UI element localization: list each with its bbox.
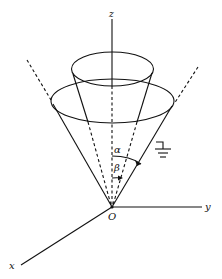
origin-label: O <box>108 211 116 222</box>
origin-point <box>110 205 113 208</box>
x-axis-label: x <box>9 260 15 271</box>
inner-cone-side-right <box>137 73 152 122</box>
cone-diagram: z y x O α β <box>0 0 222 279</box>
outer-cone-extension-left <box>27 60 51 100</box>
z-axis-label: z <box>108 9 114 19</box>
beta-arrowhead <box>118 176 123 181</box>
beta-label: β <box>113 162 120 173</box>
alpha-label: α <box>114 144 121 155</box>
outer-cone-extension-right <box>174 67 198 104</box>
outer-cone-side-left <box>53 104 112 207</box>
y-axis-label: y <box>204 201 211 212</box>
x-axis <box>21 207 112 265</box>
ground-wire <box>156 142 163 149</box>
inner-cone-side-left-hidden <box>88 122 111 205</box>
